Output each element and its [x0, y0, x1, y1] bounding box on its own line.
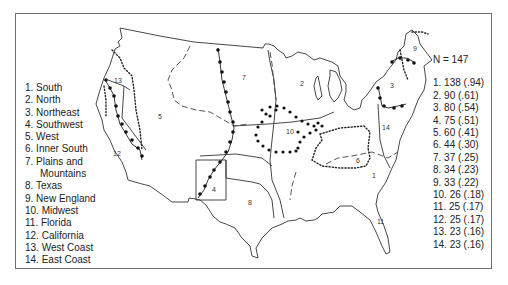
map-label-texas: 8: [248, 199, 252, 206]
map-label-midwest: 10: [286, 128, 294, 135]
california-border: [108, 80, 146, 150]
map-label-south: 1: [372, 172, 376, 179]
map-label-inner-south: 6: [356, 157, 360, 164]
map-label-west-coast: 13: [114, 77, 122, 84]
inner-south-dotted: [312, 126, 370, 168]
mississippi-border: [268, 50, 284, 218]
map-label-california: 12: [113, 150, 121, 157]
map-label-north: 2: [300, 80, 304, 87]
south-dashed: [290, 172, 296, 200]
map-label-florida: 11: [377, 218, 384, 225]
map-label-northeast: 3: [390, 82, 394, 89]
map-label-west: 5: [158, 113, 162, 120]
map-label-plains-mountains: 7: [242, 74, 246, 81]
california-dotted: [104, 86, 106, 116]
texas-border: [196, 160, 274, 218]
map-label-southwest: 4: [212, 186, 216, 193]
map-label-new-england: 9: [413, 45, 417, 52]
map-label-east-coast: 14: [382, 124, 390, 131]
new-england-dotted: [400, 32, 428, 80]
west-boundary-dashed: [168, 46, 248, 126]
us-dialect-map: 1 2 3 4 5 6 7 8 9 10 11 12 13 14: [0, 0, 508, 285]
lake-michigan: [314, 76, 322, 100]
